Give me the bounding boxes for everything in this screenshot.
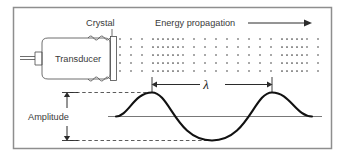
crystal-label: Crystal — [86, 18, 115, 28]
wavelength-label: λ — [202, 77, 209, 92]
ultrasound-wave-diagram: Crystal Transducer Energy propagation λ … — [0, 0, 345, 161]
energy-propagation-label: Energy propagation — [155, 18, 235, 28]
figure-border — [14, 8, 332, 149]
transducer-label: Transducer — [55, 54, 101, 64]
amplitude-label: Amplitude — [28, 112, 69, 122]
